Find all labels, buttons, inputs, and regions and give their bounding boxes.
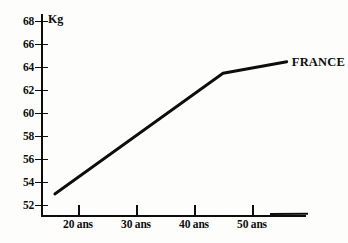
- plot-area: [0, 0, 348, 243]
- data-line-france: [55, 62, 287, 194]
- series-label-france: FRANCE: [292, 56, 345, 69]
- weight-by-age-line-chart: Kg 68 66 64 62 60 58 56 54 52 20 ans 30 …: [0, 0, 348, 243]
